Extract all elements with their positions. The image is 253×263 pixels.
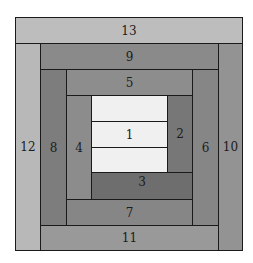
piece-1: 1: [91, 95, 168, 173]
piece-6: 6: [192, 69, 219, 226]
log-cabin-block: 13 12 9 10 11 8 5 6 7 4 3 2 1: [15, 17, 243, 251]
piece-11-label: 11: [122, 231, 137, 245]
piece-9-label: 9: [126, 50, 134, 64]
piece-12-label: 12: [20, 140, 35, 154]
piece-12: 12: [15, 43, 41, 251]
piece-4: 4: [66, 95, 92, 200]
piece-3-label: 3: [138, 175, 146, 189]
piece-11: 11: [40, 225, 219, 251]
piece-1-strip-top: [91, 95, 168, 122]
piece-7: 7: [66, 199, 193, 226]
piece-13-label: 13: [121, 24, 136, 38]
piece-1-strip-middle: 1: [91, 121, 168, 148]
piece-6-label: 6: [202, 141, 210, 155]
piece-4-label: 4: [75, 141, 83, 155]
piece-8: 8: [40, 69, 67, 226]
piece-2: 2: [167, 95, 193, 173]
piece-10-label: 10: [223, 140, 238, 154]
piece-8-label: 8: [50, 141, 58, 155]
piece-10: 10: [218, 43, 243, 251]
piece-7-label: 7: [126, 206, 134, 220]
piece-5: 5: [66, 69, 193, 96]
piece-3: 3: [91, 172, 193, 200]
piece-5-label: 5: [126, 76, 134, 90]
piece-2-label: 2: [176, 127, 184, 141]
piece-1-label: 1: [126, 128, 134, 142]
piece-13: 13: [15, 17, 243, 44]
piece-9: 9: [40, 43, 219, 70]
piece-1-strip-bottom: [91, 147, 168, 173]
